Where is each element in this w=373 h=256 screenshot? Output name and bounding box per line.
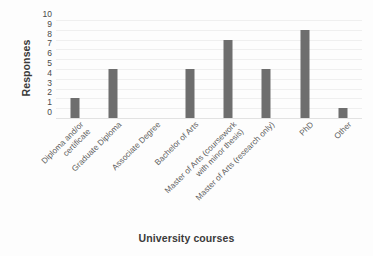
gridline <box>56 118 362 119</box>
y-axis-tick-labels: 012345678910 <box>36 14 52 112</box>
bar-slot <box>286 20 324 118</box>
bar[interactable] <box>300 30 309 118</box>
y-axis-tick-label: 1 <box>47 98 52 106</box>
bar-slot <box>209 20 247 118</box>
y-axis-tick-label: 4 <box>47 69 52 77</box>
bar[interactable] <box>109 69 118 118</box>
y-axis-tick-label: 0 <box>47 108 52 116</box>
y-axis-tick-label: 2 <box>47 88 52 96</box>
bar-slot <box>56 20 94 118</box>
bar-slot <box>133 20 171 118</box>
y-axis-tick-label: 6 <box>47 49 52 57</box>
bar-series <box>56 20 362 118</box>
chart-canvas: Responses 012345678910 Diploma and/or ce… <box>0 0 373 256</box>
bar[interactable] <box>224 40 233 118</box>
x-axis-title: University courses <box>0 232 373 244</box>
bar[interactable] <box>185 69 194 118</box>
bar-slot <box>171 20 209 118</box>
plot-area <box>56 20 362 118</box>
bar-slot <box>247 20 285 118</box>
y-axis-tick-label: 8 <box>47 30 52 38</box>
y-axis-tick-label: 10 <box>43 10 52 18</box>
bar-slot <box>94 20 132 118</box>
bar-slot <box>324 20 362 118</box>
y-axis-tick-label: 5 <box>47 59 52 67</box>
bar[interactable] <box>338 108 347 118</box>
x-axis-tick-labels: Diploma and/or certificateGraduate Diplo… <box>56 120 362 225</box>
bar[interactable] <box>262 69 271 118</box>
y-axis-tick-label: 9 <box>47 20 52 28</box>
y-axis-tick-label: 7 <box>47 39 52 47</box>
y-axis-title: Responses <box>20 30 34 106</box>
bar[interactable] <box>71 98 80 118</box>
y-axis-tick-label: 3 <box>47 79 52 87</box>
